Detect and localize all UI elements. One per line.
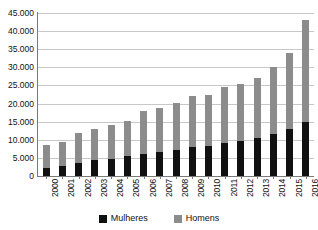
x-axis-tick-label: 2012 xyxy=(245,179,255,197)
bar-segment-homens xyxy=(108,125,115,159)
legend-entry: Homens xyxy=(174,214,220,223)
x-axis-tick-label: 2009 xyxy=(196,179,206,197)
y-axis-tick-label: 45.000 xyxy=(0,8,34,18)
stacked-bar-chart: 05.00010.00015.00020.00025.00030.00035.0… xyxy=(0,0,318,230)
bar-segment-homens xyxy=(124,121,131,156)
bar-segment-mulheres xyxy=(254,138,261,176)
x-axis-tick-mark xyxy=(46,176,47,179)
bar-segment-homens xyxy=(237,84,244,141)
x-axis-tick-label: 2001 xyxy=(66,179,76,197)
y-axis-tick-label: 30.000 xyxy=(0,62,34,72)
bar-segment-homens xyxy=(140,111,147,154)
y-axis-tick-label: 0 xyxy=(0,171,34,181)
x-axis-tick-label: 2003 xyxy=(99,179,109,197)
plot-area xyxy=(38,13,314,176)
x-axis-tick-label: 2000 xyxy=(50,179,60,197)
x-axis-tick-mark xyxy=(257,176,258,179)
x-axis-tick-label: 2010 xyxy=(212,179,222,197)
y-axis-tick-label: 5.000 xyxy=(0,153,34,163)
bar-segment-homens xyxy=(189,96,196,147)
x-axis-tick-label: 2011 xyxy=(229,179,239,196)
bar-segment-mulheres xyxy=(205,146,212,176)
bar-segment-mulheres xyxy=(173,150,180,176)
x-axis-tick-label: 2014 xyxy=(277,179,287,197)
bar-segment-mulheres xyxy=(286,129,293,176)
x-axis-tick-mark xyxy=(306,176,307,179)
x-axis-tick-mark xyxy=(192,176,193,179)
x-axis-tick-mark xyxy=(95,176,96,179)
bar-segment-mulheres xyxy=(156,152,163,176)
x-axis-tick-mark xyxy=(176,176,177,179)
bar-segment-mulheres xyxy=(189,147,196,176)
bar-segment-homens xyxy=(75,133,82,163)
x-axis-tick-label: 2015 xyxy=(294,179,304,197)
x-axis-tick-mark xyxy=(79,176,80,179)
bar-segment-homens xyxy=(173,103,180,150)
x-axis-tick-mark xyxy=(225,176,226,179)
x-axis-tick-mark xyxy=(62,176,63,179)
bar-segment-homens xyxy=(254,78,261,138)
x-axis-tick-mark xyxy=(144,176,145,179)
legend-label: Homens xyxy=(186,214,220,223)
chart-legend: MulheresHomens xyxy=(0,214,318,223)
x-axis-tick-label: 2006 xyxy=(148,179,158,197)
x-axis-tick-label: 2013 xyxy=(261,179,271,197)
x-axis-tick-label: 2002 xyxy=(83,179,93,197)
bar-segment-homens xyxy=(59,142,66,167)
bar-segment-homens xyxy=(270,67,277,134)
x-axis-tick-mark xyxy=(111,176,112,179)
bar-segment-mulheres xyxy=(43,168,50,176)
bar-segment-homens xyxy=(156,108,163,152)
bar-segment-mulheres xyxy=(108,159,115,176)
bar-segment-mulheres xyxy=(302,122,309,176)
bar-segment-mulheres xyxy=(237,141,244,176)
y-axis-tick-label: 40.000 xyxy=(0,26,34,36)
bar-segment-homens xyxy=(205,95,212,146)
x-axis-tick-mark xyxy=(241,176,242,179)
bar-segment-homens xyxy=(91,129,98,161)
y-axis-tick-label: 20.000 xyxy=(0,99,34,109)
x-axis-tick-mark xyxy=(127,176,128,179)
x-axis-tick-mark xyxy=(208,176,209,179)
bar-segment-mulheres xyxy=(221,143,228,176)
legend-swatch xyxy=(174,215,182,223)
x-axis-tick-mark xyxy=(273,176,274,179)
bar-segment-mulheres xyxy=(59,166,66,176)
bar-segment-mulheres xyxy=(124,156,131,176)
bar-segment-mulheres xyxy=(75,163,82,176)
x-axis-tick-mark xyxy=(160,176,161,179)
legend-swatch xyxy=(99,215,107,223)
gridline xyxy=(38,31,314,32)
x-axis-tick-label: 2005 xyxy=(131,179,141,197)
gridline xyxy=(38,13,314,14)
x-axis-tick-mark xyxy=(290,176,291,179)
y-axis-line xyxy=(37,12,38,177)
legend-entry: Mulheres xyxy=(99,214,148,223)
bar-segment-mulheres xyxy=(91,160,98,176)
bar-segment-homens xyxy=(221,87,228,142)
bar-segment-homens xyxy=(302,20,309,121)
gridline xyxy=(38,49,314,50)
x-axis-tick-label: 2008 xyxy=(180,179,190,197)
legend-label: Mulheres xyxy=(111,214,148,223)
y-axis-tick-label: 35.000 xyxy=(0,44,34,54)
x-axis-tick-label: 2004 xyxy=(115,179,125,197)
bar-segment-mulheres xyxy=(140,154,147,176)
x-axis-tick-label: 2007 xyxy=(164,179,174,197)
y-axis-tick-label: 10.000 xyxy=(0,135,34,145)
y-axis-tick-label: 25.000 xyxy=(0,80,34,90)
bar-segment-homens xyxy=(286,53,293,129)
bar-segment-homens xyxy=(43,145,50,168)
bar-segment-mulheres xyxy=(270,134,277,176)
x-axis-tick-label: 2016 xyxy=(310,179,318,197)
y-axis-tick-label: 15.000 xyxy=(0,117,34,127)
